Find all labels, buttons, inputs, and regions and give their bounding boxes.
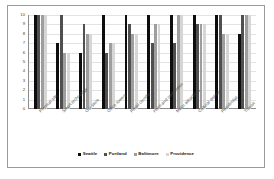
y-axis-tick-label: 9 xyxy=(23,22,25,26)
y-axis-tick-label: 4 xyxy=(23,69,25,73)
bar-group xyxy=(97,15,120,109)
y-axis: 109876543210 xyxy=(8,15,27,109)
bar-seattle[interactable] xyxy=(34,15,37,109)
legend-item[interactable]: Seattle xyxy=(78,152,97,156)
chart-canvas: 109876543210 Physical siteSmart technolo… xyxy=(8,6,264,167)
bar-providence[interactable] xyxy=(226,34,229,109)
bar-group xyxy=(233,15,256,109)
legend-label: Providence xyxy=(170,152,194,156)
y-axis-tick-label: 10 xyxy=(20,13,25,17)
bar-providence[interactable] xyxy=(44,15,47,109)
bar-providence[interactable] xyxy=(203,24,206,109)
bar-seattle[interactable] xyxy=(56,43,59,109)
bar-portland[interactable] xyxy=(60,15,63,109)
bar-providence[interactable] xyxy=(180,15,183,109)
bar-portland[interactable] xyxy=(37,15,40,109)
y-axis-tick-label: 8 xyxy=(23,32,25,36)
bar-providence[interactable] xyxy=(248,15,251,109)
bar-providence[interactable] xyxy=(89,34,92,109)
bar-portland[interactable] xyxy=(105,53,108,109)
bar-seattle[interactable] xyxy=(79,53,82,109)
legend-label: Baltimore xyxy=(138,152,158,156)
legend-swatch-icon xyxy=(78,153,81,156)
bar-portland[interactable] xyxy=(151,43,154,109)
chart-frame: 109876543210 Physical siteSmart technolo… xyxy=(7,5,265,168)
legend-swatch-icon xyxy=(134,153,137,156)
bar-seattle[interactable] xyxy=(102,15,105,109)
bar-portland[interactable] xyxy=(83,24,86,109)
y-axis-tick-label: 7 xyxy=(23,41,25,45)
y-axis-tick-label: 1 xyxy=(23,97,25,101)
bar-providence[interactable] xyxy=(135,34,138,109)
bar-group xyxy=(29,15,52,109)
bar-portland[interactable] xyxy=(128,24,131,109)
y-axis-tick-label: 6 xyxy=(23,50,25,54)
chart-legend: SeattlePortlandBaltimoreProvidence xyxy=(8,152,264,156)
x-axis: Physical siteSmart technologyOur storeOf… xyxy=(29,110,256,156)
y-axis-tick-label: 2 xyxy=(23,88,25,92)
legend-item[interactable]: Portland xyxy=(104,152,127,156)
legend-swatch-icon xyxy=(104,153,107,156)
legend-label: Portland xyxy=(109,152,127,156)
bar-portland[interactable] xyxy=(219,15,222,109)
y-axis-tick-label: 3 xyxy=(23,79,25,83)
bar-providence[interactable] xyxy=(112,43,115,109)
legend-item[interactable]: Baltimore xyxy=(134,152,159,156)
bar-providence[interactable] xyxy=(158,24,161,109)
legend-item[interactable]: Providence xyxy=(166,152,194,156)
bar-portland[interactable] xyxy=(241,15,244,109)
y-axis-tick-label: 0 xyxy=(23,107,25,111)
bar-portland[interactable] xyxy=(173,43,176,109)
legend-label: Seattle xyxy=(83,152,97,156)
bar-portland[interactable] xyxy=(196,24,199,109)
legend-swatch-icon xyxy=(166,153,169,156)
y-axis-tick-label: 5 xyxy=(23,60,25,64)
